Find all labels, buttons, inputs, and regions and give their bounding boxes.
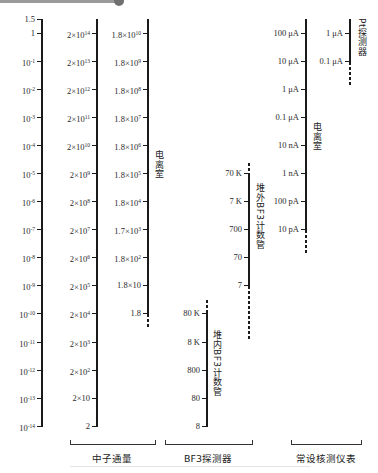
- tick-label: 1.8×104: [114, 196, 141, 208]
- tick-label: 2×1011: [67, 112, 90, 124]
- axis-tick: [37, 61, 41, 62]
- axis-tick: [143, 201, 147, 202]
- axis-tick: [202, 313, 206, 314]
- tick-label: 1.8×107: [114, 112, 141, 124]
- axis-tick: [37, 285, 41, 286]
- axis-tick: [37, 145, 41, 146]
- axis-line-pt-detector: [349, 19, 351, 62]
- axis-tick: [92, 313, 96, 314]
- tick-label: 10 nA: [278, 140, 299, 150]
- axis-tick: [143, 285, 147, 286]
- axis-line-ionization-chamber-2: [305, 19, 307, 230]
- axis-tick: [143, 229, 147, 230]
- axis-line-neutron-flux: [96, 19, 98, 427]
- tick-label: 10-2: [22, 84, 35, 96]
- tick-label: 7 K: [229, 196, 242, 206]
- group-bracket: [291, 440, 362, 445]
- axis-tick: [244, 173, 248, 174]
- axis-tick: [37, 426, 41, 427]
- tick-label: 10-1: [22, 56, 35, 68]
- axis-tick: [301, 229, 305, 230]
- tick-label: 1.8×1010: [112, 28, 141, 40]
- tick-label: 1 nA: [282, 168, 299, 178]
- axis-tick: [37, 313, 41, 314]
- group-label: 常设核测仪表: [291, 451, 360, 465]
- tick-label: 2×109: [70, 168, 90, 180]
- tick-label: 10-13: [19, 393, 35, 405]
- tick-label: 1 μA: [282, 84, 299, 94]
- tick-label: 0.1 μA: [320, 56, 343, 66]
- tick-label: 2×1010: [67, 140, 90, 152]
- axis-tick: [345, 33, 349, 34]
- tick-label: 1 μA: [326, 28, 343, 38]
- axis-tick: [37, 370, 41, 371]
- axis-dashed-extension-ionization-chamber-2: [305, 230, 307, 254]
- tick-label: 10 pA: [278, 224, 299, 234]
- tick-label: 1.8×105: [114, 168, 141, 180]
- axis-tick: [37, 89, 41, 90]
- tick-label: 1.7×103: [114, 224, 141, 236]
- axis-tick: [92, 61, 96, 62]
- tick-label: 2×1012: [67, 84, 90, 96]
- tick-label: 2×105: [70, 280, 90, 292]
- tick-label: 8 K: [187, 337, 200, 347]
- axis-line-bf3-out-of-core: [248, 173, 250, 286]
- axis-dashed-extension-bf3-out-of-core: [248, 163, 250, 173]
- axis-tick: [301, 89, 305, 90]
- axis-tick: [202, 426, 206, 427]
- tick-label: 2: [86, 421, 90, 431]
- tick-label: 1.5: [24, 14, 35, 24]
- tick-label: 2×102: [70, 365, 90, 377]
- tick-label: 70: [234, 252, 243, 262]
- axis-tick: [202, 398, 206, 399]
- tick-label: 70 K: [225, 168, 242, 178]
- tick-label: 10-12: [19, 365, 35, 377]
- tick-label: 8: [196, 421, 200, 431]
- axis-line-bf3-in-core: [206, 313, 208, 427]
- axis-tick: [92, 33, 96, 34]
- axis-dashed-extension-pt-detector: [349, 62, 351, 86]
- tick-label: 2×106: [70, 252, 90, 264]
- axis-tick: [92, 229, 96, 230]
- axis-vertical-label: Pt探测器: [356, 18, 369, 56]
- tick-label: 10-7: [22, 224, 35, 236]
- axis-tick: [37, 173, 41, 174]
- tick-label: 1.8×108: [114, 84, 141, 96]
- axis-tick: [37, 33, 41, 34]
- axis-vertical-label: 电离室: [153, 150, 166, 179]
- axis-tick: [301, 201, 305, 202]
- tick-label: 2×108: [70, 196, 90, 208]
- figure-caption-faded: [70, 466, 310, 467]
- axis-tick: [202, 342, 206, 343]
- tick-label: 2×103: [70, 337, 90, 349]
- axis-tick: [244, 257, 248, 258]
- tick-label: 7: [238, 280, 242, 290]
- axis-tick: [143, 257, 147, 258]
- axis-tick: [37, 117, 41, 118]
- group-label: BF3探测器: [165, 451, 251, 465]
- tick-label: 800: [187, 365, 200, 375]
- tick-label: 10-5: [22, 168, 35, 180]
- axis-tick: [244, 229, 248, 230]
- axis-dashed-extension-bf3-in-core: [206, 300, 208, 313]
- tick-label: 10-10: [19, 308, 35, 320]
- axis-line-scale-1: [41, 19, 43, 427]
- top-scroll-bar: [0, 0, 120, 3]
- tick-label: 10-9: [22, 280, 35, 292]
- tick-label: 10-14: [19, 421, 35, 433]
- axis-tick: [301, 61, 305, 62]
- tick-label: 1.8×10: [117, 280, 141, 290]
- axis-tick: [92, 117, 96, 118]
- tick-label: 10-11: [19, 337, 35, 349]
- axis-tick: [37, 201, 41, 202]
- tick-label: 1.8×106: [114, 140, 141, 152]
- axis-vertical-label: 堆外BF3计数管: [254, 183, 267, 249]
- tick-label: 10-3: [22, 112, 35, 124]
- axis-tick: [92, 89, 96, 90]
- axis-tick: [301, 117, 305, 118]
- axis-tick: [143, 61, 147, 62]
- tick-label: 10-8: [22, 252, 35, 264]
- axis-tick: [301, 145, 305, 146]
- axis-line-ionization-chamber-1: [147, 19, 149, 314]
- tick-label: 100 μA: [273, 28, 299, 38]
